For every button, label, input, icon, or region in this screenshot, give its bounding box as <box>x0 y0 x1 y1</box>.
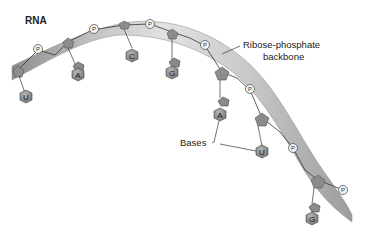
base-2-A: A <box>72 62 84 81</box>
phosphate-7: P <box>339 186 348 195</box>
svg-text:P: P <box>341 187 345 193</box>
svg-text:G: G <box>169 69 175 78</box>
phosphate-5: P <box>246 85 255 94</box>
svg-text:G: G <box>309 215 315 224</box>
svg-text:P: P <box>248 86 252 92</box>
svg-text:C: C <box>129 52 135 61</box>
svg-text:P: P <box>148 21 152 27</box>
phosphate-4: P <box>201 41 210 50</box>
svg-text:P: P <box>203 42 207 48</box>
diagram-title: RNA <box>25 15 47 26</box>
sugar-6 <box>255 113 269 126</box>
svg-text:P: P <box>291 145 295 151</box>
svg-text:U: U <box>259 148 265 157</box>
phosphate-1: P <box>34 45 43 54</box>
sugar-5 <box>215 67 229 80</box>
base-6-U: U <box>256 145 268 158</box>
base-1-U: U <box>20 90 32 103</box>
bases-label: Bases <box>180 137 207 148</box>
base-7-G: G <box>306 203 320 225</box>
bases-leader-lines <box>212 121 256 151</box>
rna-diagram: P P P P P P P U A C G A <box>0 0 365 239</box>
svg-text:A: A <box>217 111 223 120</box>
base-4-G: G <box>166 58 180 79</box>
phosphate-2: P <box>90 25 99 34</box>
svg-text:P: P <box>92 26 96 32</box>
svg-text:U: U <box>23 93 29 102</box>
phosphate-3: P <box>146 20 155 29</box>
base-5-A: A <box>214 97 229 121</box>
svg-text:P: P <box>36 46 40 52</box>
backbone-label-line1: Ribose-phosphate <box>243 39 320 50</box>
base-3-C: C <box>126 49 138 62</box>
backbone-label-line2: backbone <box>263 51 304 62</box>
phosphate-6: P <box>289 144 298 153</box>
svg-text:A: A <box>75 71 81 80</box>
